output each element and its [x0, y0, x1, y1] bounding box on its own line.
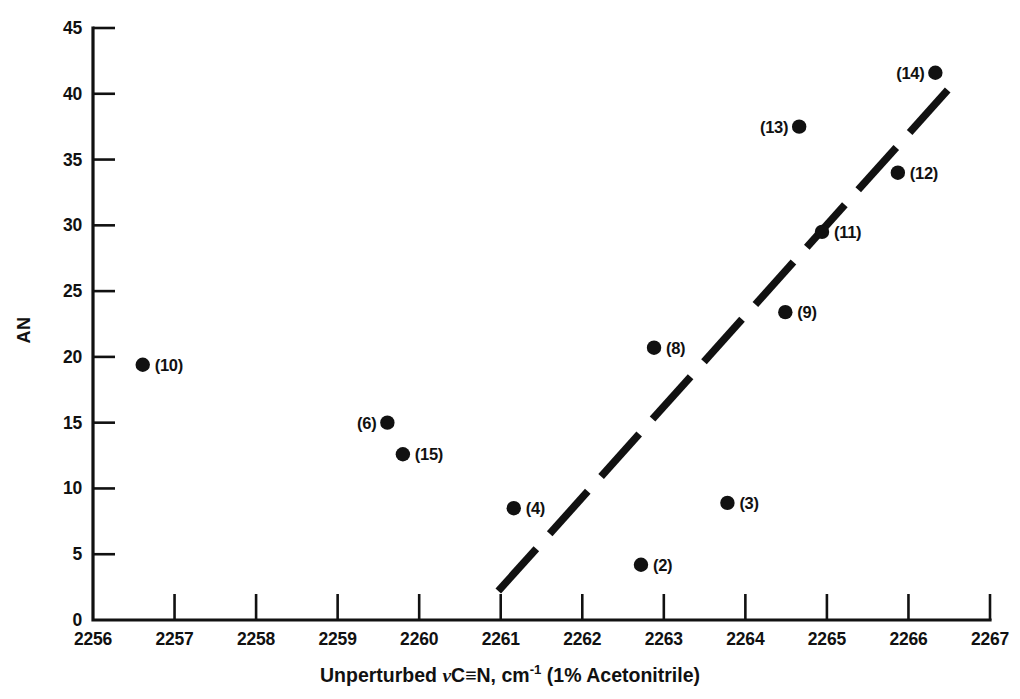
- data-point-marker: [507, 501, 521, 515]
- trend-line-segment: [601, 434, 639, 476]
- data-point-marker: [928, 66, 942, 80]
- data-point-label: (6): [357, 413, 376, 432]
- data-point-label: (4): [526, 499, 545, 518]
- x-axis-tick-label: 2267: [971, 629, 1009, 650]
- x-axis-tick-label: 2260: [400, 629, 438, 650]
- data-point-marker: [720, 496, 734, 510]
- data-point-label: (10): [155, 355, 183, 374]
- x-axis-title-suffix: (1% Acetonitrile): [541, 664, 700, 686]
- data-point-marker: [778, 305, 792, 319]
- y-axis-tick-label: 0: [40, 610, 82, 631]
- data-point-label: (2): [653, 555, 672, 574]
- x-axis-title-mid: C≡N, cm: [451, 664, 530, 686]
- trend-line-segment: [755, 262, 793, 304]
- data-point-label: (15): [415, 445, 443, 464]
- data-point-marker: [136, 358, 150, 372]
- data-point-marker: [647, 340, 661, 354]
- data-point-marker: [380, 415, 394, 429]
- data-point-label: (3): [739, 493, 758, 512]
- y-axis-tick-label: 40: [40, 83, 82, 104]
- y-axis-tick-label: 45: [40, 18, 82, 39]
- y-axis-tick-label: 10: [40, 478, 82, 499]
- x-axis-tick-label: 2258: [237, 629, 275, 650]
- trend-line-segment: [910, 90, 948, 132]
- data-point-marker: [815, 225, 829, 239]
- x-axis-tick-label: 2264: [726, 629, 764, 650]
- trend-line-dashed: [498, 90, 947, 591]
- y-axis-title: AN: [14, 317, 35, 344]
- data-point-marker: [891, 166, 905, 180]
- plot-canvas: [0, 0, 1020, 699]
- y-axis-tick-label: 20: [40, 346, 82, 367]
- trend-line-segment: [858, 147, 896, 189]
- data-point-marker: [792, 119, 806, 133]
- data-markers-group: [136, 66, 943, 572]
- y-axis-tick-label: 30: [40, 215, 82, 236]
- y-axis-tick-label: 35: [40, 149, 82, 170]
- x-axis-tick-label: 2259: [319, 629, 357, 650]
- scatter-chart-figure: 051015202530354045 225622572258225922602…: [0, 0, 1020, 699]
- data-point-label: (8): [666, 338, 685, 357]
- x-axis-tick-label: 2262: [563, 629, 601, 650]
- x-axis-tick-label: 2261: [482, 629, 520, 650]
- x-axis-tick-label: 2265: [808, 629, 846, 650]
- y-axis-tick-label: 5: [40, 544, 82, 565]
- x-axis-title-prefix: Unperturbed: [320, 664, 442, 686]
- data-point-marker: [396, 447, 410, 461]
- data-point-label: (14): [896, 63, 924, 82]
- trend-line-segment: [498, 549, 536, 591]
- nu-symbol: ν: [442, 665, 451, 686]
- axes-group: [93, 28, 990, 620]
- axis-spines: [93, 28, 990, 620]
- data-point-label: (12): [910, 163, 938, 182]
- x-axis-tick-label: 2257: [155, 629, 193, 650]
- x-axis-tick-label: 2256: [74, 629, 112, 650]
- data-point-label: (13): [760, 117, 788, 136]
- data-point-marker: [634, 558, 648, 572]
- ticks-group: [93, 94, 908, 620]
- x-axis-title: Unperturbed νC≡N, cm-1 (1% Acetonitrile): [0, 662, 1020, 687]
- y-axis-tick-label: 15: [40, 412, 82, 433]
- data-point-label: (11): [834, 222, 861, 241]
- x-axis-title-superscript: -1: [530, 662, 542, 677]
- y-axis-tick-label: 25: [40, 281, 82, 302]
- x-axis-tick-label: 2263: [645, 629, 683, 650]
- trend-line-segment: [653, 377, 691, 419]
- x-axis-tick-label: 2266: [889, 629, 927, 650]
- data-point-label: (9): [797, 303, 816, 322]
- trend-line-segment: [550, 491, 588, 533]
- trend-line-segment: [704, 319, 742, 361]
